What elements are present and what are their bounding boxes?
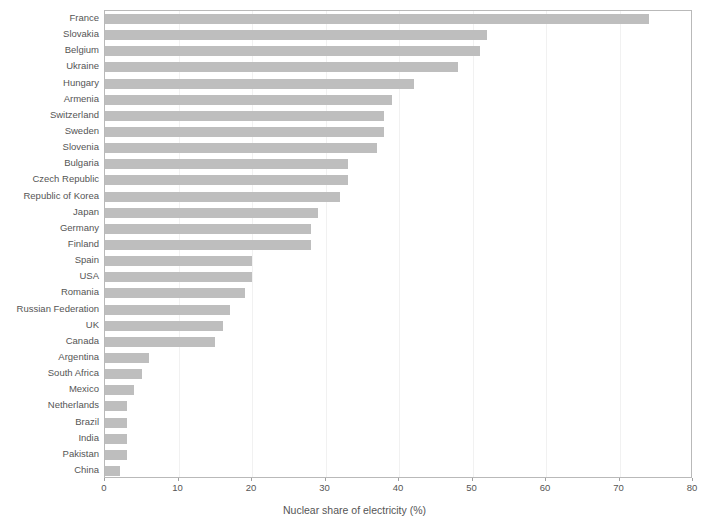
x-tick-label: 0 [101, 482, 106, 493]
y-axis-label: France [0, 13, 99, 23]
y-axis-label: Ukraine [0, 61, 99, 71]
bar [105, 95, 392, 105]
bar [105, 175, 348, 185]
bar [105, 192, 340, 202]
bar-row [105, 285, 691, 301]
y-axis-label: Hungary [0, 78, 99, 88]
bar-row [105, 269, 691, 285]
y-axis-labels: FranceSlovakiaBelgiumUkraineHungaryArmen… [0, 10, 99, 478]
y-axis-label: Romania [0, 287, 99, 297]
y-axis-label: Bulgaria [0, 158, 99, 168]
bar-row [105, 350, 691, 366]
bar-row [105, 140, 691, 156]
bar [105, 14, 649, 24]
x-tick-mark [545, 478, 546, 481]
bar-row [105, 221, 691, 237]
bar-row [105, 301, 691, 317]
bar [105, 159, 348, 169]
y-axis-label: Republic of Korea [0, 191, 99, 201]
bar-row [105, 27, 691, 43]
y-axis-label: Spain [0, 255, 99, 265]
y-axis-label: Russian Federation [0, 304, 99, 314]
x-axis-title-text: Nuclear share of electricity (%) [283, 504, 426, 516]
bar [105, 127, 384, 137]
y-axis-label: India [0, 433, 99, 443]
x-axis-title: Nuclear share of electricity (%) [0, 504, 707, 516]
bar [105, 369, 142, 379]
x-tick-mark [178, 478, 179, 481]
bar [105, 466, 120, 476]
bar [105, 240, 311, 250]
y-axis-label: China [0, 465, 99, 475]
y-axis-label: Netherlands [0, 400, 99, 410]
y-axis-label: Finland [0, 239, 99, 249]
bar [105, 62, 458, 72]
y-axis-label: Belgium [0, 45, 99, 55]
bar [105, 450, 127, 460]
x-tick-mark [251, 478, 252, 481]
bar-series [105, 11, 691, 477]
bar-row [105, 463, 691, 479]
bar [105, 353, 149, 363]
bar-row [105, 59, 691, 75]
bar [105, 434, 127, 444]
y-axis-label: Slovakia [0, 29, 99, 39]
bar-row [105, 334, 691, 350]
y-axis-label: Czech Republic [0, 174, 99, 184]
bar-row [105, 124, 691, 140]
bar-row [105, 318, 691, 334]
x-tick-mark [692, 478, 693, 481]
bar-row [105, 92, 691, 108]
bar-row [105, 382, 691, 398]
bar [105, 224, 311, 234]
x-tick-label: 70 [613, 482, 624, 493]
bar [105, 256, 252, 266]
x-tick-mark [619, 478, 620, 481]
bar [105, 401, 127, 411]
x-tick-label: 40 [393, 482, 404, 493]
bar-row [105, 447, 691, 463]
bar-row [105, 11, 691, 27]
x-axis-ticks: 01020304050607080 [104, 478, 692, 494]
bar-row [105, 156, 691, 172]
bar-row [105, 237, 691, 253]
y-axis-label: Slovenia [0, 142, 99, 152]
x-tick-label: 60 [540, 482, 551, 493]
bar [105, 321, 223, 331]
bar-row [105, 398, 691, 414]
bar-row [105, 43, 691, 59]
bar-row [105, 76, 691, 92]
bar-row [105, 253, 691, 269]
bar-row [105, 366, 691, 382]
y-axis-label: Canada [0, 336, 99, 346]
x-tick-label: 10 [172, 482, 183, 493]
bar [105, 30, 487, 40]
bar [105, 111, 384, 121]
y-axis-label: Switzerland [0, 110, 99, 120]
y-axis-label: Mexico [0, 384, 99, 394]
bar-row [105, 172, 691, 188]
plot-area [104, 10, 692, 478]
bar [105, 418, 127, 428]
bar [105, 385, 134, 395]
y-axis-label: Sweden [0, 126, 99, 136]
y-axis-label: USA [0, 271, 99, 281]
bar-row [105, 108, 691, 124]
x-tick-label: 50 [466, 482, 477, 493]
bar [105, 143, 377, 153]
bar-row [105, 205, 691, 221]
bar [105, 79, 414, 89]
x-tick-label: 80 [687, 482, 698, 493]
y-axis-label: Pakistan [0, 449, 99, 459]
y-axis-label: Germany [0, 223, 99, 233]
x-tick-label: 30 [319, 482, 330, 493]
chart-figure: FranceSlovakiaBelgiumUkraineHungaryArmen… [0, 0, 707, 525]
x-tick-mark [398, 478, 399, 481]
bar-row [105, 414, 691, 430]
y-axis-label: Japan [0, 207, 99, 217]
x-tick-label: 20 [246, 482, 257, 493]
bar-row [105, 431, 691, 447]
bar [105, 288, 245, 298]
y-axis-label: Argentina [0, 352, 99, 362]
bar-row [105, 189, 691, 205]
